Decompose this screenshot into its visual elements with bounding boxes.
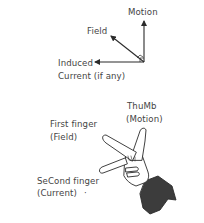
second-finger-current-label: (Current) [37,188,77,198]
field-label: Field [87,26,107,36]
folded-finger-2 [127,172,139,177]
thumb-label: ThuMb [127,101,157,111]
field-arrow [111,36,144,62]
folded-finger-1 [126,167,138,172]
second-finger-label: SeCond finger [37,176,99,186]
hand-illustration [99,128,176,214]
first-finger-field-label: (Field) [50,132,77,142]
induced-label: Induced [58,58,93,68]
current-if-any-label: Current (if any) [58,71,125,81]
second-finger [99,158,127,173]
stray-mark: · [84,188,87,198]
motion-label: Motion [128,7,158,17]
thumb-motion-label: (Motion) [126,114,163,124]
first-finger-label: First finger [50,119,97,129]
